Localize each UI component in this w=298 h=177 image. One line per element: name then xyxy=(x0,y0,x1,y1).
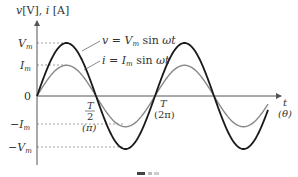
current-equation: i = Im sin ωt xyxy=(102,54,170,68)
svg-text:(π): (π) xyxy=(82,122,96,133)
caption-fragment-2 xyxy=(148,172,152,175)
x-axis-label: t xyxy=(283,97,288,108)
y-axis-label: v[V], i [A] xyxy=(16,4,69,17)
caption-fragment-3 xyxy=(154,172,159,175)
origin-label: 0 xyxy=(24,90,31,103)
caption-fragment xyxy=(137,172,145,175)
voltage-equation: v = Vm sin ωt xyxy=(102,34,176,48)
svg-text:T: T xyxy=(87,100,95,111)
x-axis-sublabel: (θ) xyxy=(278,108,292,119)
x-tick-half-period: T 2 (π) xyxy=(82,100,96,133)
voltage-leader-line xyxy=(82,41,100,51)
current-leader-line xyxy=(84,61,100,70)
neg-im-label: −Im xyxy=(10,118,31,132)
sine-wave-diagram: v[V], i [A] Vm Im 0 −Im −Vm v = Vm sin ω… xyxy=(0,0,298,177)
x-tick-period: T (2π) xyxy=(154,98,175,120)
vm-label: Vm xyxy=(18,37,33,51)
neg-vm-label: −Vm xyxy=(8,141,32,155)
svg-text:2: 2 xyxy=(87,111,93,122)
svg-text:T: T xyxy=(160,98,168,109)
svg-text:(2π): (2π) xyxy=(154,109,175,120)
im-label: Im xyxy=(19,59,31,73)
